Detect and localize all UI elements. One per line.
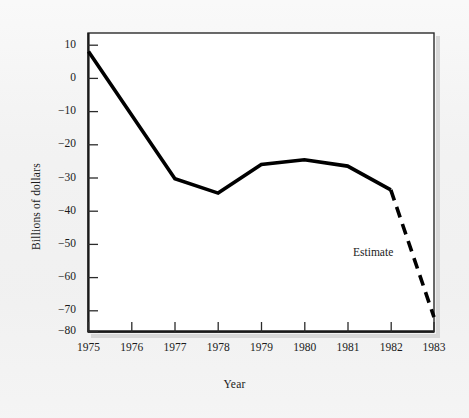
- x-tick-label: 1980: [282, 341, 328, 353]
- x-tick-label: 1979: [239, 341, 285, 353]
- y-tick-label: −80: [38, 324, 76, 336]
- y-tick-label: −60: [38, 270, 76, 282]
- x-axis-title: Year: [0, 378, 469, 390]
- x-tick-label: 1975: [66, 341, 112, 353]
- plot-frame-shadow-bottom: [91, 334, 440, 338]
- y-tick-label: −30: [38, 171, 76, 183]
- x-tick-label: 1976: [109, 341, 155, 353]
- y-tick-label: −40: [38, 204, 76, 216]
- x-tick-label: 1978: [195, 341, 241, 353]
- estimate-annotation: Estimate: [353, 246, 393, 258]
- y-tick-label: 10: [38, 38, 76, 50]
- x-tick-label: 1983: [411, 341, 457, 353]
- y-tick-label: −10: [38, 104, 76, 116]
- y-tick-label: 0: [38, 71, 76, 83]
- plot-area-background: [88, 33, 434, 332]
- y-tick-label: −20: [38, 137, 76, 149]
- x-tick-label: 1977: [152, 341, 198, 353]
- y-tick-label: −50: [38, 237, 76, 249]
- x-tick-label: 1982: [368, 341, 414, 353]
- y-tick-label: −70: [38, 303, 76, 315]
- plot-frame-shadow-right: [436, 36, 440, 336]
- figure-container: Billions of dollars Year 10 0 −10 −20 −3…: [0, 0, 469, 418]
- x-tick-label: 1981: [325, 341, 371, 353]
